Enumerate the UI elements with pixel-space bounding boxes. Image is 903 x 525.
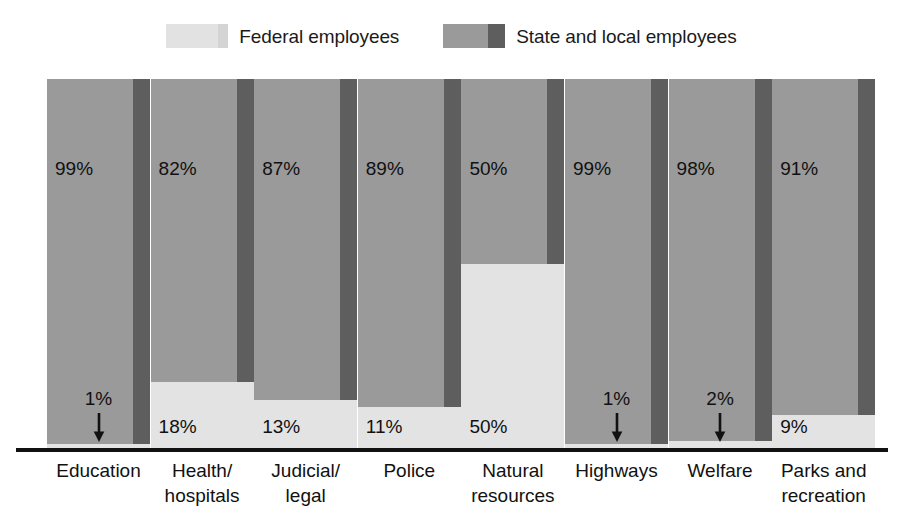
bar-segment-state-local[interactable] bbox=[358, 79, 461, 407]
bar-group[interactable]: 87%13% bbox=[254, 79, 357, 448]
x-axis-label: Parks andrecreation bbox=[760, 458, 887, 508]
bar-group[interactable]: 99%1% bbox=[47, 79, 150, 448]
bar-segment-state-local[interactable] bbox=[669, 79, 772, 441]
legend-label-federal: Federal employees bbox=[239, 27, 399, 46]
bar-shading-edge bbox=[547, 79, 564, 264]
stacked-bar-chart: Federal employees State and local employ… bbox=[0, 0, 903, 525]
bar-value-label-state-local: 50% bbox=[469, 159, 507, 178]
bar-value-label-state-local: 91% bbox=[780, 159, 818, 178]
bar-shading-edge bbox=[444, 79, 461, 407]
x-axis-label-line: recreation bbox=[760, 483, 887, 508]
plot-area: 99%1%82%18%87%13%89%11%50%50%99%1%98%2%9… bbox=[0, 79, 903, 448]
x-axis-label-line: resources bbox=[449, 483, 576, 508]
bar-shading-edge bbox=[858, 79, 875, 415]
bar-shading-edge bbox=[755, 79, 772, 441]
x-axis-line bbox=[16, 448, 888, 452]
legend-entry-federal: Federal employees bbox=[166, 24, 399, 48]
bar-group[interactable]: 89%11% bbox=[358, 79, 461, 448]
bar-value-label-federal: 9% bbox=[780, 417, 807, 436]
bar-value-label-state-local: 82% bbox=[159, 159, 197, 178]
bar-group[interactable]: 91%9% bbox=[772, 79, 875, 448]
bar-group[interactable]: 50%50% bbox=[461, 79, 564, 448]
bar-shading-edge bbox=[651, 79, 668, 444]
bar-segment-state-local[interactable] bbox=[772, 79, 875, 415]
down-arrow-icon bbox=[714, 413, 727, 443]
state-local-swatch-icon bbox=[443, 24, 505, 48]
legend-entry-state-local: State and local employees bbox=[443, 24, 736, 48]
down-arrow-icon bbox=[610, 413, 623, 443]
bar-value-label-federal: 11% bbox=[366, 417, 403, 436]
bar-value-label-federal: 50% bbox=[469, 417, 507, 436]
bar-group[interactable]: 99%1% bbox=[565, 79, 668, 448]
bar-value-label-state-local: 98% bbox=[677, 159, 715, 178]
bar-segment-state-local[interactable] bbox=[254, 79, 357, 400]
stacked-bar[interactable] bbox=[461, 79, 564, 448]
bar-value-label-state-local: 89% bbox=[366, 159, 404, 178]
bar-shading-edge bbox=[340, 79, 357, 400]
stacked-bar[interactable] bbox=[358, 79, 461, 448]
chart-legend: Federal employees State and local employ… bbox=[0, 24, 903, 48]
bar-value-label-federal: 18% bbox=[159, 417, 197, 436]
bar-value-label-state-local: 99% bbox=[55, 159, 93, 178]
bar-segment-federal[interactable] bbox=[151, 382, 254, 448]
bar-value-label-state-local: 99% bbox=[573, 159, 611, 178]
legend-label-state-local: State and local employees bbox=[516, 27, 736, 46]
bar-group[interactable]: 98%2% bbox=[669, 79, 772, 448]
down-arrow-icon bbox=[92, 413, 105, 443]
bar-group[interactable]: 82%18% bbox=[151, 79, 254, 448]
bar-value-label-federal: 2% bbox=[706, 389, 733, 408]
stacked-bar[interactable] bbox=[151, 79, 254, 448]
bar-value-label-federal: 13% bbox=[262, 417, 300, 436]
bar-value-label-federal: 1% bbox=[603, 389, 630, 408]
federal-swatch-icon bbox=[166, 24, 228, 48]
bar-value-label-state-local: 87% bbox=[262, 159, 300, 178]
bar-value-label-federal: 1% bbox=[85, 389, 112, 408]
x-axis-label-line: legal bbox=[242, 483, 369, 508]
stacked-bar[interactable] bbox=[772, 79, 875, 448]
bar-shading-edge bbox=[237, 79, 254, 382]
x-axis-label-line: Parks and bbox=[760, 458, 887, 483]
bar-segment-state-local[interactable] bbox=[151, 79, 254, 382]
bar-shading-edge bbox=[133, 79, 150, 444]
x-axis-category-labels: EducationHealth/hospitalsJudicial/legalP… bbox=[0, 458, 903, 520]
stacked-bar[interactable] bbox=[254, 79, 357, 448]
